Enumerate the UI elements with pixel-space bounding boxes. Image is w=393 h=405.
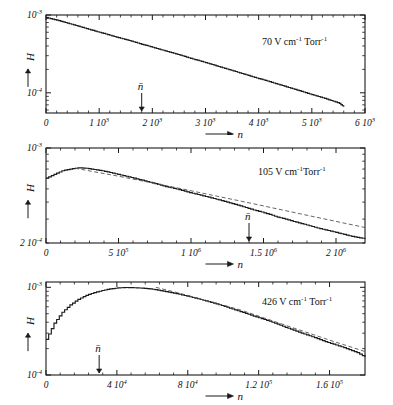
chart-panel-2: H 105 V cm-1Torr-1 n̄ n 05 1051 1061.5 1… bbox=[0, 135, 393, 270]
panel-condition-label-3: 426 V cm-1 Torr-1 bbox=[262, 296, 332, 307]
x-tick-label: 5 103 bbox=[302, 118, 322, 128]
x-axis-label-2: n bbox=[238, 258, 244, 270]
y-tick-label: 10-4 bbox=[27, 88, 42, 98]
x-tick-label: 1 103 bbox=[89, 118, 109, 128]
y-tick-label: 2 10-4 bbox=[20, 238, 42, 248]
y-tick-label: 10-3 bbox=[27, 10, 42, 20]
x-tick-label: 0 bbox=[44, 118, 49, 128]
x-tick-label: 4 103 bbox=[249, 118, 269, 128]
mean-marker-label-1: n̄ bbox=[138, 80, 144, 92]
plot-area-1 bbox=[0, 0, 393, 135]
x-tick-label: 5 105 bbox=[109, 248, 129, 258]
y-tick-label: 10-3 bbox=[27, 143, 42, 153]
x-tick-label: 1.6 105 bbox=[316, 380, 343, 390]
x-tick-label: 3 103 bbox=[196, 118, 216, 128]
y-axis-label-3: H bbox=[24, 317, 36, 325]
x-tick-label: 0 bbox=[44, 248, 49, 258]
x-tick-label: 4 104 bbox=[107, 380, 127, 390]
chart-panel-1: H 70 V cm-1 Torr-1 n̄ n 01 1032 1033 103… bbox=[0, 0, 393, 135]
figure-container: H 70 V cm-1 Torr-1 n̄ n 01 1032 1033 103… bbox=[0, 0, 393, 405]
x-tick-label: 1.5 106 bbox=[250, 248, 277, 258]
y-axis-label-2: H bbox=[24, 184, 36, 192]
x-tick-label: 1 106 bbox=[181, 248, 201, 258]
x-tick-label: 0 bbox=[44, 380, 49, 390]
panel-condition-label-1: 70 V cm-1 Torr-1 bbox=[262, 36, 327, 47]
chart-panel-3: H 426 V cm-1 Torr-1 n̄ n 04 1048 1041.2 … bbox=[0, 270, 393, 405]
x-tick-label: 1.2 105 bbox=[245, 380, 272, 390]
panel-condition-label-2: 105 V cm-1Torr-1 bbox=[258, 166, 326, 177]
mean-marker-label-2: n̄ bbox=[245, 210, 251, 222]
x-tick-label: 2 103 bbox=[142, 118, 162, 128]
x-tick-label: 8 104 bbox=[178, 380, 198, 390]
y-tick-label: 10-4 bbox=[27, 370, 42, 380]
y-axis-label-1: H bbox=[24, 53, 36, 61]
x-axis-label-3: n bbox=[238, 390, 244, 402]
x-tick-label: 2 106 bbox=[326, 248, 346, 258]
mean-marker-label-3: n̄ bbox=[95, 342, 101, 354]
x-tick-label: 6 103 bbox=[355, 118, 375, 128]
y-tick-label: 10-3 bbox=[27, 282, 42, 292]
